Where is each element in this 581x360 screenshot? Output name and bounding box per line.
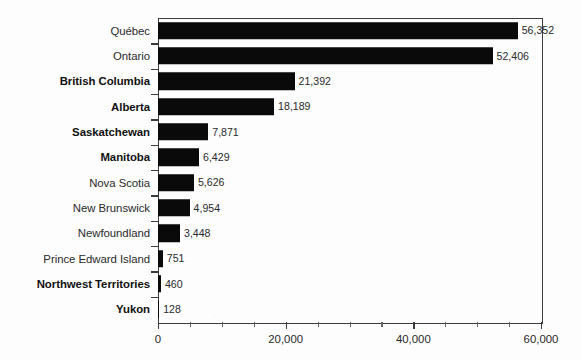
category-label: Alberta	[111, 101, 150, 113]
bar-track: 460	[158, 275, 541, 293]
bar-value-label: 128	[159, 303, 181, 315]
x-axis-minor-tick	[222, 322, 223, 327]
bar-value-label: 460	[161, 278, 183, 290]
x-axis-minor-tick	[445, 322, 446, 327]
y-axis-tick	[151, 145, 158, 146]
bar-row: Prince Edward Island751	[0, 246, 581, 271]
x-axis-tick-label: 60,000	[524, 333, 559, 345]
bar-row: New Brunswick4,954	[0, 195, 581, 220]
bar-row: Québec56,352	[0, 18, 581, 43]
y-axis-tick	[151, 43, 158, 44]
bar-value-label: 6,429	[199, 151, 230, 163]
bar-row: Alberta18,189	[0, 94, 581, 119]
bar-row: British Columbia21,392	[0, 69, 581, 94]
bar-track: 4,954	[158, 199, 541, 217]
bar-track: 751	[158, 250, 541, 268]
y-axis-tick	[151, 94, 158, 95]
y-axis-tick	[151, 119, 158, 120]
bar-value-label: 21,392	[295, 75, 331, 87]
bar-row: Yukon128	[0, 297, 581, 322]
bar-track: 6,429	[158, 149, 541, 167]
category-label: Northwest Territories	[37, 278, 150, 290]
y-axis-tick	[151, 170, 158, 171]
category-label: Saskatchewan	[72, 126, 150, 138]
bar-value-label: 751	[163, 253, 185, 265]
x-axis-major-tick	[413, 322, 414, 329]
bar-track: 21,392	[158, 73, 541, 91]
bar[interactable]	[158, 47, 493, 65]
bar[interactable]	[158, 22, 518, 40]
bar-value-label: 7,871	[208, 126, 239, 138]
bar-rows-container: Québec56,352Ontario52,406British Columbi…	[0, 18, 581, 322]
bar[interactable]	[158, 98, 274, 116]
x-axis-tick-label: 20,000	[268, 333, 303, 345]
bar-row: Saskatchewan7,871	[0, 119, 581, 144]
x-axis-tick-label: 40,000	[396, 333, 431, 345]
y-axis-tick	[151, 195, 158, 196]
bar[interactable]	[158, 149, 199, 167]
bar-value-label: 5,626	[194, 177, 225, 189]
y-axis-tick	[151, 221, 158, 222]
bar-track: 128	[158, 301, 541, 319]
bar-track: 7,871	[158, 123, 541, 141]
x-axis-minor-tick	[318, 322, 319, 327]
category-label: Newfoundland	[78, 227, 150, 239]
y-axis-tick	[151, 246, 158, 247]
bar-value-label: 52,406	[493, 50, 529, 62]
x-axis-minor-tick	[254, 322, 255, 327]
y-axis-tick	[151, 297, 158, 298]
x-axis-major-tick	[158, 322, 159, 329]
bar-row: Northwest Territories460	[0, 271, 581, 296]
bar-track: 3,448	[158, 225, 541, 243]
bar-track: 5,626	[158, 174, 541, 192]
bar-track: 18,189	[158, 98, 541, 116]
y-axis-tick	[151, 69, 158, 70]
bar-value-label: 4,954	[190, 202, 221, 214]
bar[interactable]	[158, 225, 180, 243]
category-label: Prince Edward Island	[43, 253, 150, 265]
bar-track: 56,352	[158, 22, 541, 40]
x-axis-major-tick	[286, 322, 287, 329]
x-axis-minor-tick	[190, 322, 191, 327]
x-axis-minor-tick	[381, 322, 382, 327]
category-label: Manitoba	[100, 151, 150, 163]
x-axis-major-tick	[541, 322, 542, 329]
y-axis-tick	[151, 271, 158, 272]
bar-track: 52,406	[158, 47, 541, 65]
bar-row: Nova Scotia5,626	[0, 170, 581, 195]
x-axis-minor-tick	[477, 322, 478, 327]
bar-value-label: 3,448	[180, 227, 211, 239]
category-label: New Brunswick	[73, 202, 150, 214]
bar[interactable]	[158, 199, 190, 217]
bar-value-label: 56,352	[518, 25, 554, 37]
bar-chart: Québec56,352Ontario52,406British Columbi…	[0, 0, 581, 360]
x-axis-minor-tick	[509, 322, 510, 327]
category-label: Nova Scotia	[89, 177, 150, 189]
bar[interactable]	[158, 174, 194, 192]
category-label: Québec	[110, 25, 150, 37]
category-label: Ontario	[113, 50, 150, 62]
category-label: Yukon	[116, 303, 150, 315]
x-axis-minor-tick	[350, 322, 351, 327]
bar-value-label: 18,189	[274, 101, 310, 113]
bar-row: Manitoba6,429	[0, 145, 581, 170]
bar[interactable]	[158, 73, 295, 91]
x-axis: 020,00040,00060,000	[158, 322, 541, 358]
x-axis-tick-label: 0	[155, 333, 161, 345]
bar-row: Ontario52,406	[0, 43, 581, 68]
bar[interactable]	[158, 123, 208, 141]
category-label: British Columbia	[60, 75, 150, 87]
bar-row: Newfoundland3,448	[0, 221, 581, 246]
